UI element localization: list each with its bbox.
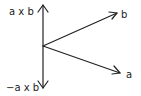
label-a-cross-b: a x b — [9, 6, 34, 17]
label-neg-a-cross-b: −a x b — [6, 82, 39, 93]
cross-product-diagram: a x b −a x b b a — [0, 0, 141, 96]
label-b: b — [121, 9, 127, 20]
label-a: a — [126, 69, 132, 80]
vector-b-line — [43, 13, 117, 46]
vector-b — [43, 12, 117, 46]
vector-a — [43, 46, 120, 74]
vector-a-line — [43, 46, 120, 73]
